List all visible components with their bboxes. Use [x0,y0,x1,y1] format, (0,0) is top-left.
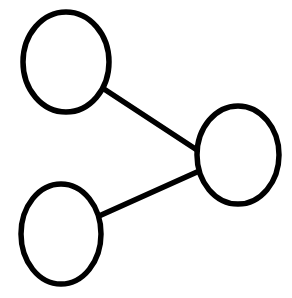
node-right[interactable] [197,106,279,204]
edge-layer [99,89,197,216]
diagram-canvas [0,0,292,298]
edge-bottom-left-to-right[interactable] [99,172,197,216]
node-layer [21,12,279,284]
node-top-left[interactable] [23,12,109,112]
edge-top-left-to-right[interactable] [104,89,197,150]
node-bottom-left[interactable] [21,184,101,284]
graph-svg [0,0,292,298]
